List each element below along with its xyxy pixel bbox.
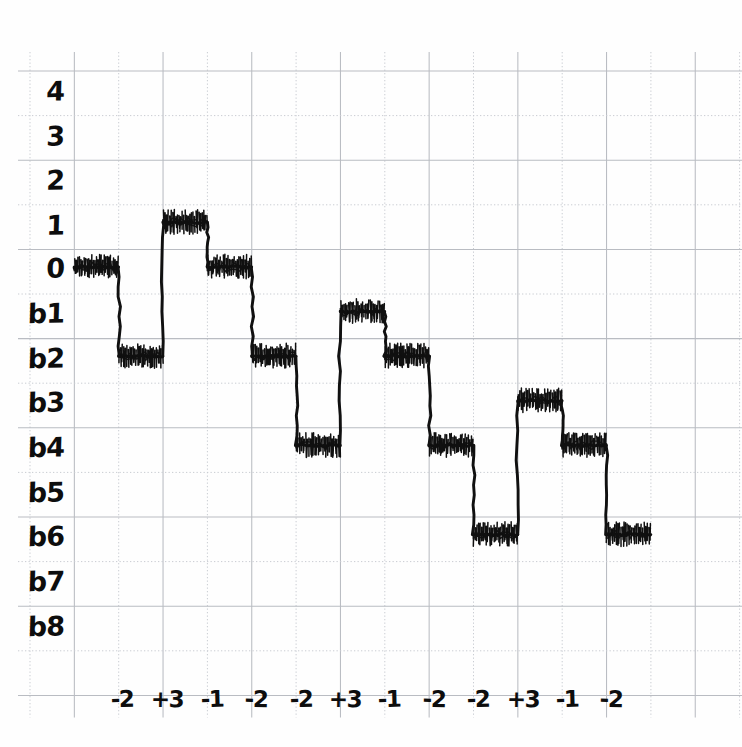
signal-trace: [0, 0, 742, 747]
waveform-chart: 43210b1b2b3b4b5b6b7b8 -2+3-1-2-2+3-1-2-2…: [0, 0, 742, 747]
